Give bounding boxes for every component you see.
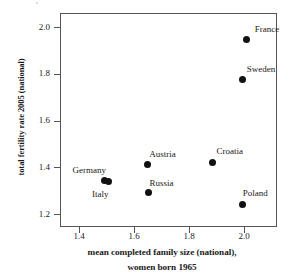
data-point [239,201,246,208]
data-point [105,178,112,185]
artifact-speck [36,2,38,4]
data-point-label: Croatia [216,147,243,156]
y-tick-mark [54,27,60,28]
data-point-label: Sweden [247,65,276,74]
x-axis-title-line2: women born 1965 [33,260,291,275]
y-tick-mark [54,214,60,215]
x-tick-label: 2.0 [224,232,264,241]
y-tick-mark [54,121,60,122]
y-tick-label: 1.6 [10,116,50,125]
data-point-label: Poland [243,189,268,198]
data-point-label: France [255,25,280,34]
x-tick-mark [244,227,245,233]
data-point-label: Russia [149,179,173,188]
data-point-label: Italy [92,190,109,199]
data-point [145,189,152,196]
y-tick-label: 1.8 [10,69,50,78]
y-tick-label: 1.4 [10,163,50,172]
y-tick-mark [54,167,60,168]
x-tick-mark [189,227,190,233]
x-tick-label: 1.8 [169,232,209,241]
x-axis-title-line1: mean completed family size (national), [88,247,237,257]
scatter-plot-figure: total fertility rate 2005 (national) 1.2… [0,0,291,279]
y-tick-label: 1.2 [10,210,50,219]
x-tick-mark [79,227,80,233]
y-tick-mark [54,74,60,75]
x-tick-label: 1.4 [59,232,99,241]
data-point [144,161,151,168]
x-tick-mark [134,227,135,233]
x-axis-title: mean completed family size (national), w… [33,245,291,275]
data-point-label: Austria [149,150,176,159]
x-tick-label: 1.6 [114,232,154,241]
data-point-label: Germany [72,166,106,175]
data-point [209,159,216,166]
y-tick-label: 2.0 [10,23,50,32]
